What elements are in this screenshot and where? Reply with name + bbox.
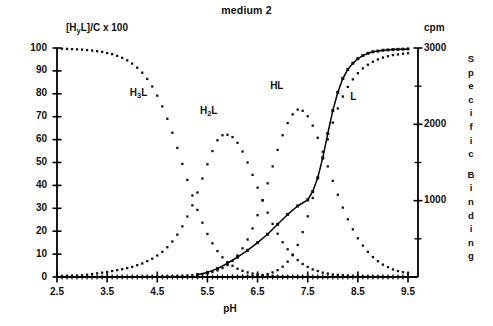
data-point (397, 276, 399, 278)
specific-binding-point (306, 198, 309, 201)
specific-binding-point (286, 213, 289, 216)
series-label-hl: HL (270, 80, 283, 91)
data-point (236, 142, 238, 144)
data-point (302, 263, 304, 265)
series-h3l (56, 48, 409, 279)
data-point (307, 276, 309, 278)
data-point (66, 48, 68, 50)
data-point (362, 244, 364, 246)
series-label-sub: 2 (207, 109, 211, 118)
data-point (161, 105, 163, 107)
series-label-sub: 3 (137, 91, 141, 100)
data-point (181, 225, 183, 227)
data-point (76, 48, 78, 50)
y-axis-tick-label: 80 (17, 87, 47, 98)
data-point (231, 265, 233, 267)
data-point (96, 272, 98, 274)
data-point (357, 72, 359, 74)
specific-binding-point (341, 77, 344, 80)
data-point (332, 122, 334, 124)
y-axis-tick-label: 60 (17, 133, 47, 144)
data-point (387, 55, 389, 57)
data-point (332, 180, 334, 182)
y-axis-tick-label: 50 (17, 156, 47, 167)
data-point (96, 276, 98, 278)
data-point (151, 85, 153, 87)
data-point (201, 222, 203, 224)
x-axis-tick-label: 2.5 (37, 286, 77, 297)
data-point (166, 246, 168, 248)
data-point (337, 194, 339, 196)
data-point (276, 149, 278, 151)
data-point (266, 212, 268, 214)
data-point (206, 233, 208, 235)
data-point (276, 275, 278, 277)
x-axis-tick-label: 8.5 (338, 286, 378, 297)
data-point (201, 177, 203, 179)
specific-binding-point (316, 176, 319, 179)
data-point (56, 276, 58, 278)
y2-axis-tick-label: 1000 (424, 194, 446, 205)
data-point (81, 48, 83, 50)
x-axis-tick-label: 6.5 (238, 286, 278, 297)
specific-binding-point (386, 48, 389, 51)
data-point (116, 269, 118, 271)
data-point (166, 118, 168, 120)
series-hl (56, 108, 409, 278)
data-point (362, 67, 364, 69)
data-point (407, 52, 409, 54)
data-point (171, 275, 173, 277)
data-point (387, 276, 389, 278)
data-point (352, 228, 354, 230)
specific-binding-point (391, 48, 394, 51)
data-series (56, 47, 410, 278)
data-point (226, 134, 228, 136)
data-point (141, 72, 143, 74)
data-point (342, 95, 344, 97)
data-point (397, 53, 399, 55)
data-point (131, 266, 133, 268)
data-point (71, 48, 73, 50)
specific-binding-point (331, 109, 334, 112)
data-point (342, 274, 344, 276)
data-point (151, 258, 153, 260)
series-label-post: L (141, 87, 147, 98)
data-point (56, 48, 58, 50)
data-point (357, 237, 359, 239)
data-point (402, 276, 404, 278)
series-specific-binding (196, 47, 410, 276)
data-point (176, 147, 178, 149)
data-point (337, 276, 339, 278)
data-point (121, 276, 123, 278)
y-axis-tick-label: 20 (17, 225, 47, 236)
data-point (156, 254, 158, 256)
data-point (141, 276, 143, 278)
data-point (251, 272, 253, 274)
data-point (146, 78, 148, 80)
data-point (181, 163, 183, 165)
data-point (171, 132, 173, 134)
data-point (407, 272, 409, 274)
data-point (302, 276, 304, 278)
data-point (81, 276, 83, 278)
data-point (126, 59, 128, 61)
data-point (322, 271, 324, 273)
data-point (101, 276, 103, 278)
data-point (342, 206, 344, 208)
data-point (121, 268, 123, 270)
data-point (362, 275, 364, 277)
data-point (297, 244, 299, 246)
y2-axis-tick-label: 3000 (424, 42, 446, 53)
data-point (106, 271, 108, 273)
data-point (337, 107, 339, 109)
data-point (156, 275, 158, 277)
data-point (256, 214, 258, 216)
series-label-h3l: H3L (130, 87, 148, 98)
data-point (292, 113, 294, 115)
data-point (116, 276, 118, 278)
data-point (392, 276, 394, 278)
data-point (171, 240, 173, 242)
data-point (191, 274, 193, 276)
data-point (61, 48, 63, 50)
specific-binding-point (321, 156, 324, 159)
